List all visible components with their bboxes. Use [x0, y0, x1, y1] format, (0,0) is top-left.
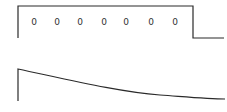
value-label: 0 — [148, 17, 154, 27]
value-label: 0 — [101, 17, 107, 27]
value-label: 0 — [77, 17, 83, 27]
value-label: 0 — [123, 17, 129, 27]
value-label: 0 — [31, 17, 37, 27]
value-label: 0 — [172, 17, 178, 27]
decay-curve-trace — [18, 69, 225, 101]
value-label: 0 — [54, 17, 60, 27]
square-pulse-trace — [18, 6, 224, 38]
